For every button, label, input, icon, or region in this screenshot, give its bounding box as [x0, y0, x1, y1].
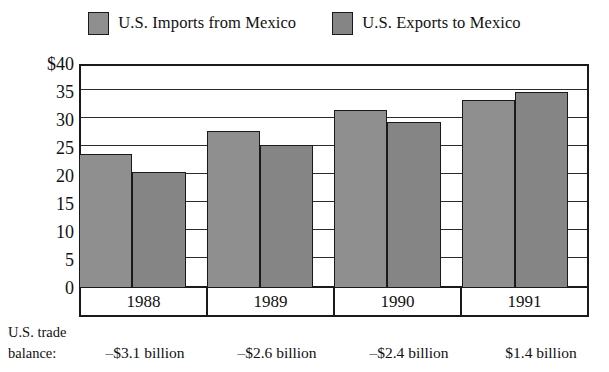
legend-item-imports: U.S. Imports from Mexico: [88, 12, 296, 35]
legend-swatch-imports: [88, 12, 109, 35]
y-tick-label-15: 15: [56, 195, 74, 213]
trade-balance-value-1988: –$3.1 billion: [79, 343, 211, 363]
gridline-35: [81, 89, 587, 90]
y-tick-label-0: 0: [65, 279, 74, 297]
trade-balance-caption-line2: balance:: [8, 343, 84, 364]
year-label-1991: 1991: [462, 288, 587, 315]
year-label-1990: 1990: [335, 288, 462, 315]
x-axis-year-row: 1988198919901991: [79, 288, 589, 317]
y-tick-label-10: 10: [56, 223, 74, 241]
y-tick-label-20: 20: [56, 167, 74, 185]
legend-swatch-exports: [332, 12, 353, 35]
gridline-5: [81, 257, 587, 258]
y-axis: $4035302520151050: [0, 64, 74, 288]
gridline-20: [81, 173, 587, 174]
trade-balance-caption-line1: U.S. trade: [8, 322, 84, 343]
year-label-1989: 1989: [208, 288, 335, 315]
trade-balance-values: –$3.1 billion–$2.6 billion–$2.4 billion$…: [79, 343, 607, 363]
plot-area: [79, 64, 589, 288]
gridline-30: [81, 117, 587, 118]
y-tick-label-25: 25: [56, 139, 74, 157]
y-tick-label-40: $40: [47, 55, 74, 73]
legend-label-exports: U.S. Exports to Mexico: [362, 15, 520, 32]
y-tick-label-30: 30: [56, 111, 74, 129]
legend-label-imports: U.S. Imports from Mexico: [118, 15, 296, 32]
gridline-25: [81, 145, 587, 146]
y-tick-label-35: 35: [56, 83, 74, 101]
trade-balance-caption: U.S. trade balance:: [8, 322, 84, 364]
gridline-10: [81, 229, 587, 230]
trade-balance-value-1990: –$2.4 billion: [343, 343, 475, 363]
gridline-15: [81, 201, 587, 202]
trade-balance-value-1991: $1.4 billion: [475, 343, 607, 363]
chart-legend: U.S. Imports from Mexico U.S. Exports to…: [0, 6, 609, 40]
y-tick-label-5: 5: [65, 251, 74, 269]
legend-item-exports: U.S. Exports to Mexico: [332, 12, 520, 35]
trade-balance-value-1989: –$2.6 billion: [211, 343, 343, 363]
trade-balance-block: U.S. trade balance: –$3.1 billion–$2.6 b…: [8, 322, 609, 368]
year-label-1988: 1988: [81, 288, 208, 315]
